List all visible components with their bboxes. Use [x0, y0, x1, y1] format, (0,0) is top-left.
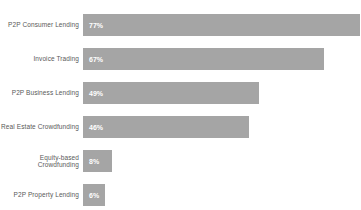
bar-value-label: 67% [83, 56, 103, 63]
chart-row: Real Estate Crowdfunding 46% [0, 116, 361, 138]
bar-value-label: 8% [83, 158, 99, 165]
category-label: Real Estate Crowdfunding [0, 123, 83, 130]
bar-area: 77% [83, 14, 361, 36]
bar-area: 46% [83, 116, 361, 138]
category-label: Equity-based Crowdfunding [0, 154, 83, 168]
bar-chart: P2P Consumer Lending 77% Invoice Trading… [0, 0, 361, 210]
bar: 77% [83, 14, 360, 36]
bar: 49% [83, 82, 259, 104]
chart-row: P2P Business Lending 49% [0, 82, 361, 104]
bar: 8% [83, 150, 112, 172]
chart-row: P2P Consumer Lending 77% [0, 14, 361, 36]
category-label: P2P Property Lending [0, 191, 83, 198]
chart-row: Invoice Trading 67% [0, 48, 361, 70]
bar: 46% [83, 116, 249, 138]
bar-area: 8% [83, 150, 361, 172]
bar-area: 67% [83, 48, 361, 70]
bar-area: 49% [83, 82, 361, 104]
category-label: Invoice Trading [0, 55, 83, 62]
category-label: P2P Consumer Lending [0, 21, 83, 28]
bar-value-label: 6% [83, 192, 99, 199]
chart-row: Equity-based Crowdfunding 8% [0, 150, 361, 172]
bar-area: 6% [83, 184, 361, 206]
bar-value-label: 49% [83, 90, 103, 97]
category-label: P2P Business Lending [0, 89, 83, 96]
bar-value-label: 46% [83, 124, 103, 131]
chart-row: P2P Property Lending 6% [0, 184, 361, 206]
bar-value-label: 77% [83, 22, 103, 29]
bar: 6% [83, 184, 105, 206]
bar: 67% [83, 48, 324, 70]
